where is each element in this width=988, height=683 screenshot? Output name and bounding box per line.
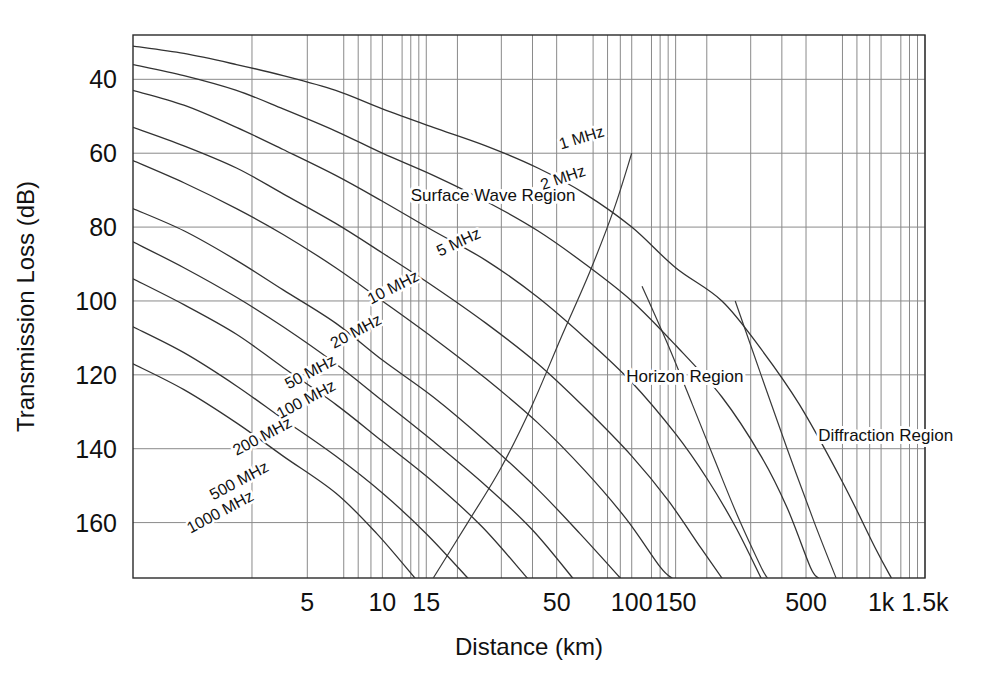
region-label: Diffraction Region	[818, 426, 953, 445]
frequency-curve	[133, 364, 415, 578]
curve-label: 200 MHz	[230, 414, 295, 459]
x-tick-label: 10	[368, 588, 396, 616]
x-tick-label: 1k	[868, 588, 895, 616]
y-tick-labels: 406080100120140160	[75, 65, 117, 536]
curve-label: 20 MHz	[327, 311, 384, 352]
region-label: Horizon Region	[626, 367, 743, 386]
gridlines-vertical	[252, 35, 925, 578]
x-tick-label: 1.5k	[901, 588, 949, 616]
y-axis-title: Transmission Loss (dB)	[12, 181, 39, 432]
x-tick-label: 15	[412, 588, 440, 616]
x-tick-label: 100	[611, 588, 653, 616]
propagation-loss-chart: 1 MHz1 MHz2 MHz2 MHz5 MHz5 MHz10 MHz10 M…	[0, 0, 988, 683]
x-axis-title: Distance (km)	[455, 633, 603, 660]
region-label: Surface Wave Region	[411, 186, 576, 205]
frequency-curve	[133, 327, 468, 578]
y-tick-label: 40	[89, 65, 117, 93]
y-tick-label: 80	[89, 213, 117, 241]
y-tick-label: 160	[75, 509, 117, 537]
x-tick-label: 150	[655, 588, 697, 616]
y-tick-label: 120	[75, 361, 117, 389]
y-tick-label: 100	[75, 287, 117, 315]
y-tick-label: 60	[89, 139, 117, 167]
chart-canvas: 1 MHz1 MHz2 MHz2 MHz5 MHz5 MHz10 MHz10 M…	[0, 0, 988, 683]
x-tick-label: 50	[543, 588, 571, 616]
x-tick-label: 5	[300, 588, 314, 616]
curve-label: 1 MHz	[557, 123, 606, 153]
x-tick-label: 500	[785, 588, 827, 616]
region-labels-group: Surface Wave RegionSurface Wave RegionHo…	[411, 186, 953, 445]
x-tick-labels: 51015501001505001k1.5k	[300, 588, 949, 616]
curve-labels-group: 1 MHz1 MHz2 MHz2 MHz5 MHz5 MHz10 MHz10 M…	[184, 123, 606, 537]
y-tick-label: 140	[75, 435, 117, 463]
